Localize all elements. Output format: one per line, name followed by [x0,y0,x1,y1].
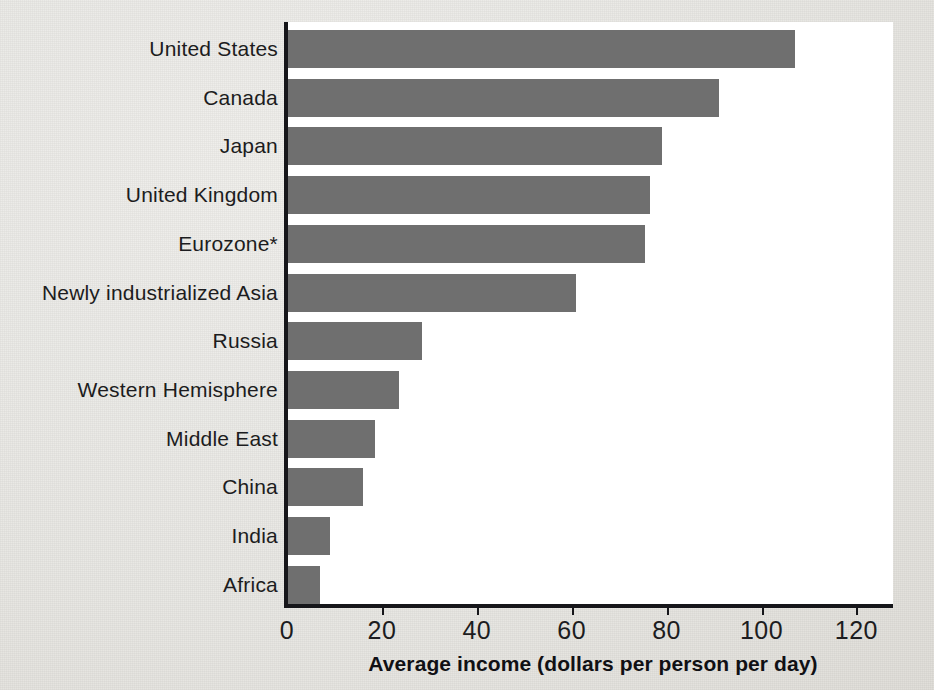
bar-row [287,79,893,117]
x-tick-label: 100 [740,616,783,645]
bar [287,127,662,165]
category-label: Japan [220,127,278,165]
category-label: India [231,517,278,555]
x-axis-title: Average income (dollars per person per d… [287,652,899,676]
bar-row [287,468,893,506]
bar [287,566,320,604]
x-tick-label: 80 [652,616,681,645]
category-label: United States [149,30,278,68]
bar [287,420,375,458]
bar [287,322,422,360]
category-label: Africa [223,566,278,604]
bar-row [287,176,893,214]
chart-page: United StatesCanadaJapanUnited KingdomEu… [0,0,934,690]
bar [287,274,576,312]
x-tick-label: 120 [835,616,878,645]
bar [287,79,719,117]
plot-area [287,22,893,606]
category-label: Russia [213,322,278,360]
bar-row [287,127,893,165]
category-axis-labels: United StatesCanadaJapanUnited KingdomEu… [0,22,278,606]
x-tick [477,604,479,615]
category-label: Middle East [166,420,278,458]
bar-row [287,371,893,409]
x-tick-label: 60 [557,616,586,645]
bar-row [287,30,893,68]
bar-row [287,517,893,555]
x-axis-line [284,604,893,608]
category-label: Newly industrialized Asia [42,274,278,312]
x-tick-label: 0 [280,616,294,645]
bar-row [287,566,893,604]
x-tick [382,604,384,615]
bar [287,225,645,263]
category-label: United Kingdom [126,176,278,214]
bar [287,468,363,506]
y-axis-line [284,22,288,608]
bar [287,517,330,555]
bar-row [287,420,893,458]
x-tick-label: 20 [367,616,396,645]
category-label: Eurozone* [178,225,278,263]
x-tick [762,604,764,615]
bar [287,30,795,68]
category-label: Western Hemisphere [78,371,278,409]
bar [287,176,650,214]
category-label: Canada [203,79,278,117]
bar [287,371,399,409]
x-tick [667,604,669,615]
x-tick [856,604,858,615]
bar-row [287,322,893,360]
bar-row [287,274,893,312]
bar-row [287,225,893,263]
category-label: China [222,468,278,506]
x-tick-label: 40 [462,616,491,645]
x-tick [572,604,574,615]
